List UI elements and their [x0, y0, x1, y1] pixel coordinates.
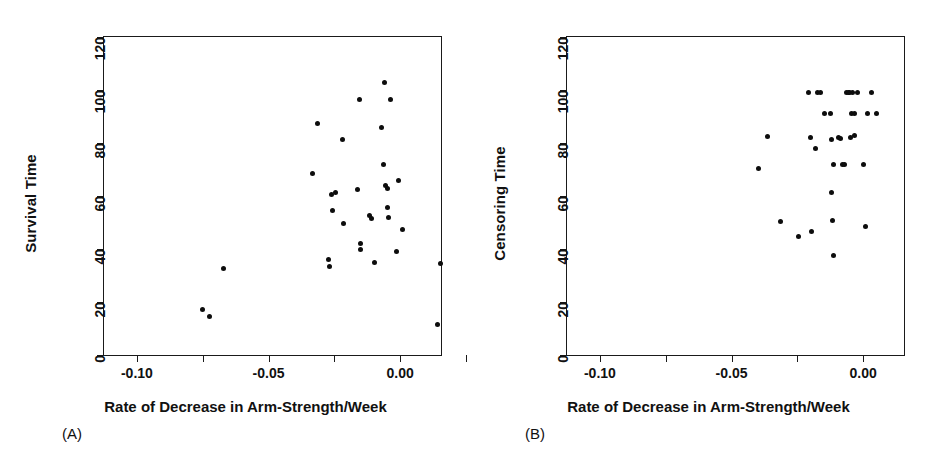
scatter-point	[394, 249, 399, 254]
scatter-point	[813, 146, 818, 151]
panel-b-y-axis-title: Censoring Time	[491, 104, 508, 304]
panel-a-x-axis-title: Rate of Decrease in Arm-Strength/Week	[0, 398, 463, 415]
scatter-point	[778, 219, 783, 224]
x-tick-mark	[600, 355, 601, 362]
scatter-point	[388, 97, 393, 102]
y-tick-label: 0	[555, 355, 571, 363]
x-tick-mark	[203, 355, 204, 362]
x-tick-label: -0.10	[121, 365, 153, 381]
panel-a: Survival Time 020406080100120-0.10-0.050…	[0, 0, 463, 465]
scatter-point	[829, 137, 834, 142]
scatter-point	[396, 178, 401, 183]
scatter-point	[865, 111, 870, 116]
scatter-point	[341, 221, 346, 226]
y-tick-label: 120	[555, 37, 571, 60]
scatter-point	[369, 216, 374, 221]
scatter-point	[207, 314, 212, 319]
scatter-point	[382, 80, 387, 85]
panel-b-plot-area: 020406080100120-0.10-0.050.00	[566, 36, 905, 356]
scatter-point	[855, 90, 860, 95]
scatter-point	[385, 205, 390, 210]
x-tick-mark	[269, 355, 270, 362]
scatter-point	[200, 307, 205, 312]
scatter-point	[861, 162, 866, 167]
scatter-point	[355, 187, 360, 192]
panel-b: Censoring Time 020406080100120-0.10-0.05…	[463, 0, 926, 465]
x-tick-label: 0.00	[387, 365, 414, 381]
scatter-point	[438, 261, 443, 266]
scatter-point	[386, 215, 391, 220]
scatter-point	[358, 241, 363, 246]
y-tick-label: 40	[555, 249, 571, 265]
scatter-point	[842, 162, 847, 167]
y-tick-label: 0	[92, 355, 108, 363]
y-tick-label: 80	[555, 143, 571, 159]
scatter-point	[358, 247, 363, 252]
y-tick-label: 60	[555, 196, 571, 212]
y-tick-label: 100	[555, 90, 571, 113]
y-tick-label: 120	[92, 37, 108, 60]
x-tick-mark	[732, 355, 733, 362]
scatter-point	[822, 111, 827, 116]
scatter-point	[808, 135, 813, 140]
x-tick-label: -0.05	[716, 365, 748, 381]
scatter-point	[756, 166, 761, 171]
scatter-point	[357, 97, 362, 102]
scatter-point	[796, 234, 801, 239]
x-tick-mark	[400, 355, 401, 362]
y-tick-label: 80	[92, 143, 108, 159]
scatter-point	[326, 257, 331, 262]
panel-b-x-axis-title: Rate of Decrease in Arm-Strength/Week	[463, 398, 926, 415]
y-tick-label: 100	[92, 90, 108, 113]
scatter-point	[221, 266, 226, 271]
y-tick-label: 40	[92, 249, 108, 265]
scatter-point	[818, 90, 823, 95]
figure-scatter-pair: Survival Time 020406080100120-0.10-0.050…	[0, 0, 926, 465]
scatter-point	[806, 90, 811, 95]
scatter-point	[828, 111, 833, 116]
scatter-point	[852, 111, 857, 116]
panel-b-tag: (B)	[525, 425, 545, 442]
scatter-point	[838, 136, 843, 141]
x-tick-mark	[797, 355, 798, 362]
scatter-point	[435, 322, 440, 327]
scatter-point	[385, 186, 390, 191]
x-tick-label: 0.00	[850, 365, 877, 381]
x-tick-mark	[863, 355, 864, 362]
scatter-point	[340, 137, 345, 142]
scatter-point	[333, 190, 338, 195]
scatter-point	[330, 208, 335, 213]
scatter-point	[830, 218, 835, 223]
panel-a-tag: (A)	[62, 425, 82, 442]
scatter-point	[874, 111, 879, 116]
scatter-point	[829, 190, 834, 195]
scatter-point	[863, 224, 868, 229]
x-tick-mark	[137, 355, 138, 362]
scatter-point	[372, 260, 377, 265]
y-tick-label: 20	[555, 302, 571, 318]
scatter-point	[831, 253, 836, 258]
y-tick-label: 20	[92, 302, 108, 318]
scatter-point	[400, 227, 405, 232]
panel-a-y-axis-title: Survival Time	[22, 104, 39, 304]
scatter-point	[869, 90, 874, 95]
scatter-point	[809, 229, 814, 234]
scatter-point	[315, 121, 320, 126]
scatter-point	[381, 162, 386, 167]
x-tick-mark	[666, 355, 667, 362]
x-tick-label: -0.05	[253, 365, 285, 381]
scatter-point	[765, 134, 770, 139]
x-tick-label: -0.10	[584, 365, 616, 381]
scatter-point	[379, 125, 384, 130]
y-tick-label: 60	[92, 196, 108, 212]
scatter-point	[852, 133, 857, 138]
scatter-point	[831, 162, 836, 167]
x-tick-mark	[334, 355, 335, 362]
panel-a-plot-area: 020406080100120-0.10-0.050.00	[103, 36, 442, 356]
scatter-point	[327, 264, 332, 269]
scatter-point	[310, 171, 315, 176]
